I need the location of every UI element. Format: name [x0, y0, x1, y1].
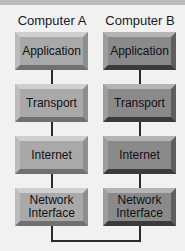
computer-a-internet-layer: Internet: [15, 136, 88, 174]
connector-a-2: [51, 122, 53, 136]
connector-b-2: [139, 122, 141, 136]
connector-a-3: [51, 174, 53, 188]
computer-a-transport-layer: Transport: [15, 84, 88, 122]
computer-b-title: Computer B: [100, 13, 180, 28]
layer-label: Application: [22, 45, 81, 58]
layer-label: Internet: [31, 149, 72, 162]
connector-b-3: [139, 174, 141, 188]
layer-label: Network Interface: [116, 194, 163, 220]
layer-label: Internet: [119, 149, 160, 162]
computer-a-application-layer: Application: [15, 32, 88, 70]
connector-b-1: [139, 70, 141, 84]
layer-label: Transport: [114, 97, 165, 110]
computer-b-network-interface-layer: Network Interface: [103, 188, 176, 226]
top-border-band: [0, 0, 185, 5]
computer-a-network-interface-layer: Network Interface: [15, 188, 88, 226]
layer-label: Network Interface: [28, 194, 75, 220]
computer-b-internet-layer: Internet: [103, 136, 176, 174]
computer-a-title: Computer A: [12, 13, 92, 28]
connector-a-1: [51, 70, 53, 84]
computer-b-transport-layer: Transport: [103, 84, 176, 122]
physical-link-line: [51, 240, 141, 242]
layer-label: Application: [110, 45, 169, 58]
layer-label: Transport: [26, 97, 77, 110]
computer-b-application-layer: Application: [103, 32, 176, 70]
